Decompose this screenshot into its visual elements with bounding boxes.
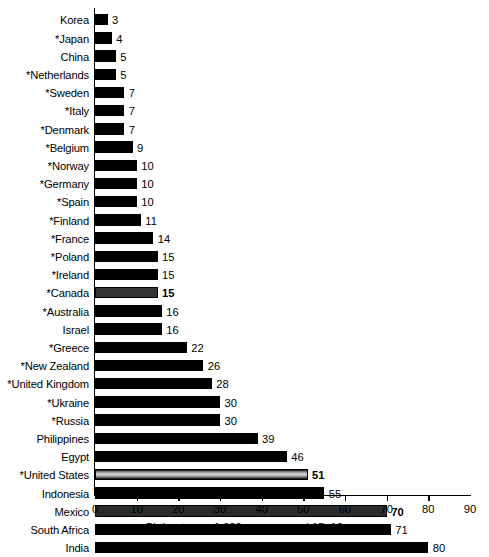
bar-category-label: Korea [0, 14, 89, 26]
bar-row: Israel16 [0, 320, 489, 338]
bar-value-label: 46 [291, 451, 303, 463]
bar-category-label: *Ukraine [0, 397, 89, 409]
x-axis-tick-label: 10 [130, 503, 142, 516]
bar-value-label: 10 [141, 178, 153, 190]
bar-category-label: *Russia [0, 415, 89, 427]
bar-category-label: *Italy [0, 105, 89, 117]
bar-value-label: 9 [137, 142, 143, 154]
bar-row: Mexico70 [0, 502, 489, 520]
bar [95, 451, 287, 462]
bar-row: *Italy7 [0, 102, 489, 120]
x-axis-tick-label: 80 [422, 503, 434, 516]
x-axis-title: Birth rate per 1,000 women aged 15–19 [0, 521, 489, 534]
bar [95, 360, 203, 371]
x-axis-tick [178, 496, 179, 501]
bar [95, 14, 108, 25]
bar-row: *Netherlands5 [0, 65, 489, 83]
bar-category-label: *United Kingdom [0, 378, 89, 390]
x-axis-tick [428, 496, 429, 501]
bar [95, 469, 308, 480]
bar-value-label: 14 [158, 233, 170, 245]
bar-row: *Norway10 [0, 156, 489, 174]
bar-row: *New Zealand26 [0, 357, 489, 375]
bar-value-label: 28 [216, 378, 228, 390]
bar-category-label: *Poland [0, 251, 89, 263]
bar-row: *Canada15 [0, 284, 489, 302]
x-axis-tick-label: 20 [172, 503, 184, 516]
bar-category-label: Philippines [0, 433, 89, 445]
bar-value-label: 15 [162, 269, 174, 281]
bar-category-label: *Sweden [0, 87, 89, 99]
bar [95, 269, 158, 280]
bar-category-label: Egypt [0, 451, 89, 463]
bar-row: Korea3 [0, 11, 489, 29]
x-axis-tick-label: 60 [339, 503, 351, 516]
x-axis-tick-label: 70 [380, 503, 392, 516]
x-axis-tick [303, 496, 304, 501]
bar-row: *Greece22 [0, 338, 489, 356]
bar-value-label: 70 [391, 506, 403, 518]
bar-row: *Sweden7 [0, 84, 489, 102]
bar [95, 50, 116, 61]
bar [95, 251, 158, 262]
bar-category-label: *Ireland [0, 269, 89, 281]
bar-row: *United Kingdom28 [0, 375, 489, 393]
x-axis-tick-label: 0 [92, 503, 98, 516]
bar-value-label: 15 [162, 251, 174, 263]
bar-category-label: *Greece [0, 342, 89, 354]
bar-value-label: 5 [120, 51, 126, 63]
bar-value-label: 11 [145, 215, 157, 227]
bar-category-label: Mexico [0, 506, 89, 518]
bar [95, 396, 220, 407]
bar-category-label: India [0, 542, 89, 554]
bar-category-label: *Canada [0, 287, 89, 299]
bar [95, 542, 428, 553]
bar [95, 305, 162, 316]
bar-value-label: 80 [433, 542, 445, 554]
bar-category-label: *Belgium [0, 142, 89, 154]
bar-row: *Australia16 [0, 302, 489, 320]
bar-row: Egypt46 [0, 448, 489, 466]
x-axis-tick [387, 496, 388, 501]
bar-value-label: 16 [166, 324, 178, 336]
bar-row: China5 [0, 47, 489, 65]
bar-value-label: 7 [129, 87, 135, 99]
bar-category-label: *Germany [0, 178, 89, 190]
bar-value-label: 7 [129, 105, 135, 117]
bar [95, 87, 124, 98]
bar [95, 323, 162, 334]
bar [95, 378, 212, 389]
bar-row: *Ireland15 [0, 266, 489, 284]
bar-value-label: 4 [116, 33, 122, 45]
bar [95, 287, 158, 298]
bar-value-label: 16 [166, 306, 178, 318]
bar-value-label: 30 [225, 415, 237, 427]
bar [95, 214, 141, 225]
bar-row: India80 [0, 539, 489, 557]
bar-row: *Russia30 [0, 411, 489, 429]
bar-value-label: 39 [262, 433, 274, 445]
x-axis-tick [262, 496, 263, 501]
bar-row: *Ukraine30 [0, 393, 489, 411]
bar-category-label: *Finland [0, 215, 89, 227]
bar-row: *France14 [0, 229, 489, 247]
bar-value-label: 3 [112, 14, 118, 26]
bar-row: *Belgium9 [0, 138, 489, 156]
bar [95, 32, 112, 43]
x-axis-tick-label: 90 [464, 503, 476, 516]
bar-row: *Germany10 [0, 175, 489, 193]
x-axis-tick [220, 496, 221, 501]
bar-category-label: *Netherlands [0, 69, 89, 81]
bar-row: *Spain10 [0, 193, 489, 211]
bar-category-label: Israel [0, 324, 89, 336]
bar [95, 414, 220, 425]
bar-value-label: 7 [129, 124, 135, 136]
bar-category-label: China [0, 51, 89, 63]
bar [95, 160, 137, 171]
bar-category-label: *Denmark [0, 124, 89, 136]
bar-row: *Finland11 [0, 211, 489, 229]
bar [95, 487, 324, 498]
bar-category-label: *Spain [0, 196, 89, 208]
bar-category-label: *Japan [0, 33, 89, 45]
